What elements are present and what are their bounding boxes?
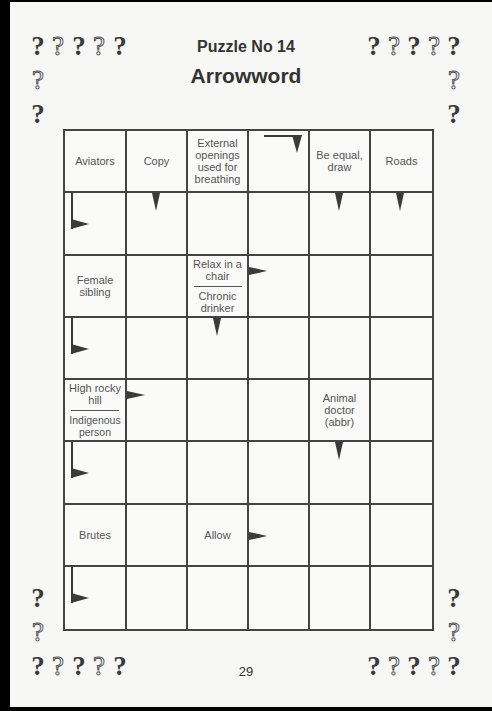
question-mark-outline-icon: ? [28, 619, 48, 646]
answer-cell[interactable] [371, 442, 432, 504]
answer-cell[interactable] [188, 442, 249, 504]
clue-text: External openings used for breathing [193, 137, 243, 185]
clue-text: Aviators [75, 155, 115, 167]
clue-text: Female sibling [72, 274, 118, 298]
answer-cell[interactable] [249, 380, 310, 442]
clue-cell: External openings used for breathing [188, 131, 249, 193]
question-mark-outline-icon: ? [444, 619, 464, 646]
arrow-down-icon [335, 193, 343, 211]
answer-cell[interactable] [127, 318, 188, 380]
answer-cell[interactable] [371, 505, 432, 567]
clue-text: Animal doctor (abbr) [320, 392, 360, 428]
answer-cell[interactable] [249, 318, 310, 380]
answer-cell[interactable] [127, 256, 188, 318]
answer-cell[interactable] [310, 567, 371, 629]
puzzle-title: Arrowword [0, 64, 492, 88]
answer-cell[interactable] [249, 193, 310, 255]
clue-text: Brutes [79, 529, 111, 541]
answer-cell[interactable] [188, 567, 249, 629]
question-mark-solid-icon: ? [28, 101, 48, 128]
clue-text-bottom: Indigenous person [66, 414, 124, 438]
clue-cell: Be equal, draw [310, 131, 371, 193]
answer-cell[interactable] [249, 505, 310, 567]
answer-cell[interactable] [371, 567, 432, 629]
answer-cell[interactable] [127, 380, 188, 442]
clue-text: Copy [144, 155, 170, 167]
clue-cell: Copy [127, 131, 188, 193]
clue-cell: Aviators [65, 131, 127, 193]
answer-cell[interactable] [65, 442, 127, 504]
clue-cell: Roads [371, 131, 432, 193]
arrow-right-icon [249, 267, 267, 275]
answer-cell[interactable] [188, 380, 249, 442]
arrow-down-icon [396, 193, 404, 211]
answer-cell[interactable] [188, 193, 249, 255]
answer-cell[interactable] [371, 193, 432, 255]
answer-cell[interactable] [371, 380, 432, 442]
answer-cell[interactable] [310, 442, 371, 504]
answer-cell[interactable] [310, 256, 371, 318]
answer-cell[interactable] [188, 318, 249, 380]
answer-cell[interactable] [127, 442, 188, 504]
answer-cell[interactable] [249, 567, 310, 629]
question-mark-solid-icon: ? [444, 101, 464, 128]
split-clue-cell: Relax in a chair Chronic drinker [188, 256, 249, 318]
arrow-down-icon [152, 193, 160, 211]
arrowword-grid: Aviators Copy External openings used for… [63, 129, 434, 631]
answer-cell[interactable] [371, 318, 432, 380]
answer-cell[interactable] [310, 505, 371, 567]
clue-cell: Female sibling [65, 256, 127, 318]
clue-text: Be equal, draw [316, 149, 364, 173]
arrow-down-icon [335, 442, 343, 460]
arrow-down-icon [213, 318, 221, 336]
puzzle-number: Puzzle No 14 [0, 38, 492, 56]
clue-divider [194, 286, 242, 287]
answer-cell[interactable] [249, 131, 310, 193]
clue-divider [71, 410, 119, 411]
answer-cell[interactable] [127, 567, 188, 629]
answer-cell[interactable] [249, 442, 310, 504]
clue-text-top: Relax in a chair [193, 258, 243, 282]
answer-cell[interactable] [65, 318, 127, 380]
clue-cell: Animal doctor (abbr) [310, 380, 371, 442]
page-number: 29 [0, 664, 492, 679]
clue-text: Allow [204, 529, 230, 541]
answer-cell[interactable] [371, 256, 432, 318]
arrow-right-icon [127, 391, 145, 399]
answer-cell[interactable] [65, 193, 127, 255]
clue-cell: Allow [188, 505, 249, 567]
split-clue-cell: High rocky hill Indigenous person [65, 380, 127, 442]
question-mark-solid-icon: ? [28, 585, 48, 612]
answer-cell[interactable] [127, 193, 188, 255]
answer-cell[interactable] [310, 193, 371, 255]
clue-text-top: High rocky hill [66, 382, 124, 406]
answer-cell[interactable] [127, 505, 188, 567]
clue-text: Roads [386, 155, 418, 167]
answer-cell[interactable] [65, 567, 127, 629]
arrow-right-icon [249, 532, 267, 540]
answer-cell[interactable] [249, 256, 310, 318]
clue-cell: Brutes [65, 505, 127, 567]
answer-cell[interactable] [310, 318, 371, 380]
question-mark-solid-icon: ? [444, 585, 464, 612]
clue-text-bottom: Chronic drinker [193, 290, 243, 314]
